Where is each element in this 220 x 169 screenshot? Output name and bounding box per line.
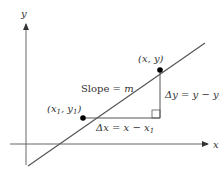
point-x-y — [157, 67, 163, 73]
point-x-y-label: (x, y) — [138, 53, 164, 64]
point-x1-y1 — [80, 115, 86, 121]
delta-x-label: Δx = x − x1 — [95, 122, 154, 135]
delta-y-label: Δy = y − y1 — [164, 89, 220, 102]
y-axis-label: y — [20, 8, 27, 19]
point-x1-y1-label: (x1, y1) — [47, 103, 82, 116]
x-axis-label: x — [213, 139, 219, 150]
slope-diagram: y x Slope = m (x1, y1) (x, y) Δx = x − x… — [0, 0, 220, 169]
right-angle-marker — [152, 110, 160, 118]
slope-label: Slope = m — [81, 83, 134, 94]
